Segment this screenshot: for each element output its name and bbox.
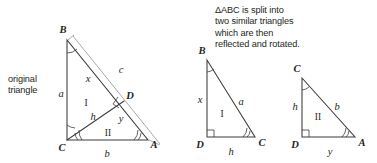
vertex-label-b-original: B	[58, 24, 66, 35]
triangle-two-group: C D A h b y II	[290, 63, 365, 157]
angle-arc-a-2	[138, 133, 141, 140]
region-label-i-one: I	[220, 109, 223, 119]
region-label-ii-original: II	[105, 128, 111, 138]
side-c-offset-line	[73, 36, 160, 144]
side-label-c-original: c	[119, 64, 124, 75]
right-angle-mark-d-two	[302, 130, 309, 137]
side-label-b-original: b	[104, 148, 109, 159]
vertex-label-d-two: D	[290, 139, 299, 150]
vertex-label-a-two: A	[357, 137, 365, 148]
triangle-one-outline	[207, 60, 255, 137]
region-label-i-original: I	[84, 98, 87, 108]
side-label-x-one: x	[197, 94, 203, 105]
vertex-label-d-original: D	[125, 90, 134, 101]
side-label-y-original: y	[118, 113, 124, 124]
side-label-h-one: h	[228, 146, 233, 157]
side-label-a-original: a	[58, 88, 63, 99]
triangle-two-outline	[302, 78, 355, 137]
side-label-h-original: h	[90, 111, 95, 122]
right-angle-mark-d-one	[207, 130, 214, 137]
geometry-figure: B C A D a b c x y h I II B D C x a h I	[0, 0, 377, 163]
side-label-a-one: a	[238, 96, 243, 107]
original-triangle-group: B C A D a b c x y h I II	[58, 24, 160, 159]
angle-arc-c-upper	[67, 125, 75, 128]
triangle-abc-outline	[67, 40, 148, 140]
vertex-label-c-one: C	[258, 137, 266, 148]
side-label-y-two: y	[327, 146, 333, 157]
side-label-b-two: b	[334, 101, 339, 112]
vertex-label-c-original: C	[58, 142, 66, 153]
vertex-label-c-two: C	[293, 63, 301, 74]
angle-arc-a-two-1	[342, 128, 346, 137]
triangle-one-group: B D C x a h I	[195, 45, 266, 157]
vertex-label-b-one: B	[197, 45, 205, 56]
angle-arc-c-one-1	[243, 128, 247, 137]
vertex-label-a-original: A	[149, 139, 157, 150]
region-label-ii-two: II	[315, 112, 321, 122]
angle-arc-a-1	[134, 130, 138, 140]
side-label-h-two: h	[292, 101, 297, 112]
angle-arc-c-one-2	[247, 131, 250, 137]
angle-arc-a-two-2	[346, 131, 349, 137]
vertex-label-d-one: D	[195, 139, 204, 150]
side-label-x-original: x	[85, 73, 91, 84]
angle-arc-c-two	[302, 87, 309, 90]
side-c-tick-top	[68, 35, 74, 40]
